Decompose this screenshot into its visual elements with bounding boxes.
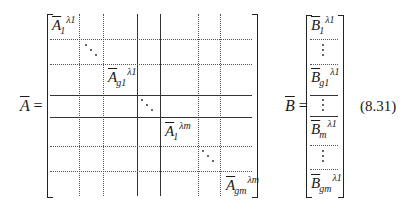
vector-b-dotted-hline bbox=[310, 169, 338, 170]
equals-sign-a: = bbox=[33, 97, 42, 114]
matrix-a-block-gm: Agmλm bbox=[226, 178, 259, 193]
vector-b-label: B = bbox=[285, 97, 308, 115]
matrix-a-solid-vline bbox=[137, 14, 138, 196]
vertical-ellipsis bbox=[322, 44, 325, 58]
vector-b-entry-1: B1λ1 bbox=[311, 18, 335, 33]
diagonal-ellipsis bbox=[85, 44, 99, 58]
matrix-a-solid-vline bbox=[160, 14, 161, 196]
vertical-ellipsis bbox=[322, 99, 325, 113]
vector-b-dotted-hline bbox=[310, 145, 338, 146]
matrix-a-dotted-vline bbox=[198, 14, 199, 196]
matrix-a-block-m1: A1λm bbox=[165, 124, 191, 139]
matrix-a-solid-hline bbox=[50, 117, 252, 118]
vector-b-solid-hline bbox=[310, 116, 338, 117]
diagonal-ellipsis bbox=[202, 150, 216, 164]
vector-b-entry-gm: Bgmλ1 bbox=[311, 176, 342, 191]
vector-b-left-bracket bbox=[306, 15, 312, 198]
vector-b-symbol: B bbox=[285, 97, 295, 114]
matrix-a-dotted-hline bbox=[50, 39, 252, 40]
vector-b-right-bracket bbox=[338, 15, 344, 198]
matrix-a-dotted-hline bbox=[50, 171, 252, 172]
vector-b-dotted-hline bbox=[310, 39, 338, 40]
vector-b-dotted-hline bbox=[310, 64, 338, 65]
vector-b-solid-hline bbox=[310, 95, 338, 96]
matrix-a-label: A = bbox=[20, 97, 43, 115]
matrix-a-dotted-vline bbox=[103, 14, 104, 196]
vector-b-entry-m: Bmλ1 bbox=[311, 122, 337, 137]
matrix-a-block-g1: Ag1λ1 bbox=[108, 70, 137, 85]
matrix-a-dotted-hline bbox=[50, 146, 252, 147]
diagonal-ellipsis bbox=[141, 99, 155, 113]
equation-number: (8.31) bbox=[360, 98, 396, 115]
vector-b-entry-g1: Bg1λ1 bbox=[311, 70, 340, 85]
matrix-a-solid-hline bbox=[50, 95, 252, 96]
matrix-a-dotted-vline bbox=[79, 14, 80, 196]
matrix-a-dotted-hline bbox=[50, 64, 252, 65]
matrix-a-symbol: A bbox=[20, 97, 29, 114]
matrix-a-block-1: A1λ1 bbox=[52, 18, 76, 33]
vertical-ellipsis bbox=[322, 150, 325, 164]
matrix-a-right-bracket bbox=[252, 14, 258, 198]
matrix-a-dotted-vline bbox=[220, 14, 221, 196]
